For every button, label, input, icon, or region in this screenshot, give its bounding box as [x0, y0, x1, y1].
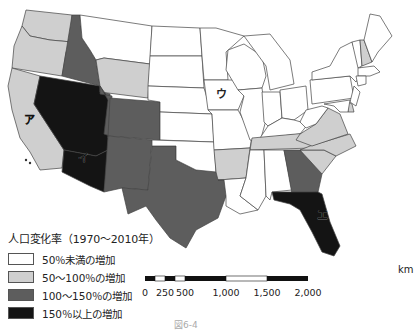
label-e: エ	[317, 209, 328, 222]
scale-tick: 1,500	[253, 287, 280, 298]
state-massachusetts	[358, 66, 380, 76]
island-dot	[29, 162, 31, 164]
scale-ticks: 0 250 500 1,000 1,500 2,000	[145, 287, 395, 299]
state-north-dakota	[150, 26, 202, 56]
state-florida	[272, 192, 340, 256]
state-colorado	[108, 98, 160, 140]
state-south-dakota	[148, 56, 204, 88]
scale-tick: 0	[142, 287, 148, 298]
scale-seg	[165, 276, 175, 281]
scale-unit: km	[398, 264, 414, 275]
scale-seg	[175, 276, 185, 281]
scale-seg	[185, 276, 226, 281]
legend-label: 100～150％の増加	[42, 288, 132, 303]
figure-caption: 図6-4	[174, 318, 198, 331]
state-new-mexico	[104, 136, 152, 192]
legend-swatch	[8, 307, 34, 319]
legend-label: 150％以上の増加	[42, 306, 122, 321]
label-a: ア	[24, 114, 35, 127]
label-i: イ	[78, 152, 89, 165]
legend-title: 人口変化率（1970～2010年）	[8, 230, 160, 246]
legend-label: 50～100％の増加	[42, 270, 125, 285]
scale-tick: 1,000	[212, 287, 239, 298]
legend-swatch	[8, 271, 34, 283]
legend-swatch	[8, 253, 34, 265]
scale-tick: 2,000	[294, 287, 321, 298]
legend: 人口変化率（1970～2010年） 50％未満の増加 50～100％の増加 10…	[8, 230, 160, 322]
legend-item: 50～100％の増加	[8, 268, 160, 286]
scale-tick: 500	[176, 287, 194, 298]
legend-item: 150％以上の増加	[8, 304, 160, 322]
legend-item: 100～150％の増加	[8, 286, 160, 304]
scale-bar: km 0 250 500 1,000 1,500 2,000	[145, 268, 395, 299]
label-u: ウ	[216, 88, 227, 101]
scale-seg	[226, 276, 267, 281]
island-dot	[25, 159, 27, 161]
legend-swatch	[8, 289, 34, 301]
scale-tick: 250	[156, 287, 174, 298]
scale-seg	[267, 276, 308, 281]
state-pennsylvania	[310, 76, 354, 104]
state-kansas	[160, 112, 214, 142]
scale-seg	[155, 276, 165, 281]
scale-seg	[145, 276, 155, 281]
legend-label: 50％未満の増加	[42, 252, 115, 267]
state-connecticut	[356, 76, 366, 86]
legend-item: 50％未満の増加	[8, 250, 160, 268]
scale-bar-graphic	[145, 275, 395, 283]
state-arkansas	[214, 148, 250, 180]
